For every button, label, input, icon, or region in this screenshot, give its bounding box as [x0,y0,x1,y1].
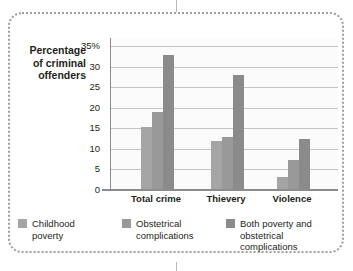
y-tick-label: 25 [60,82,100,92]
legend-item[interactable]: Childhoodpoverty [18,218,75,241]
bar-group [277,139,310,190]
y-tick-label: 20 [60,103,100,113]
legend-swatch-icon [226,219,235,228]
legend-label-line: complications [136,230,194,242]
bar[interactable] [299,139,310,190]
legend-label-line: Childhood [32,218,75,230]
bar-group [211,75,244,190]
x-axis-category-labels: Total crimeThieveryViolence [102,193,338,207]
bar[interactable] [163,55,174,190]
x-category-label: Violence [247,193,337,204]
legend-label-line: obstetrical complications [240,230,336,253]
bar[interactable] [152,112,163,190]
bar[interactable] [288,160,299,190]
y-axis-tick-labels: 05101520253035% [60,38,100,190]
y-tick-label: 5 [60,164,100,174]
chart-legend: ChildhoodpovertyObstetricalcomplications… [18,218,336,248]
y-tick-label: 35% [60,41,100,51]
legend-label: Both poverty andobstetrical complication… [240,218,336,253]
bar-group [141,55,174,190]
y-tick-label: 0 [60,185,100,195]
y-tick-label: 15 [60,123,100,133]
page-rule-top [176,0,177,12]
bar[interactable] [233,75,244,190]
legend-swatch-icon [122,219,131,228]
plot-block [102,38,338,190]
legend-label: Obstetricalcomplications [136,218,194,241]
legend-item[interactable]: Obstetricalcomplications [122,218,194,241]
legend-swatch-icon [18,219,27,228]
y-tick-label: 30 [60,62,100,72]
cut-off-page-caption [14,0,314,3]
legend-label-line: poverty [32,230,75,242]
legend-label-line: Both poverty and [240,218,336,230]
bar[interactable] [141,127,152,190]
plot-area [110,38,338,190]
page-rule-bottom [176,262,177,271]
legend-label-line: Obstetrical [136,218,194,230]
legend-item[interactable]: Both poverty andobstetrical complication… [226,218,336,253]
gridline [111,46,338,47]
legend-label: Childhoodpoverty [32,218,75,241]
bar[interactable] [211,141,222,190]
x-axis-line [102,189,338,191]
y-tick-label: 10 [60,144,100,154]
bar[interactable] [222,137,233,190]
